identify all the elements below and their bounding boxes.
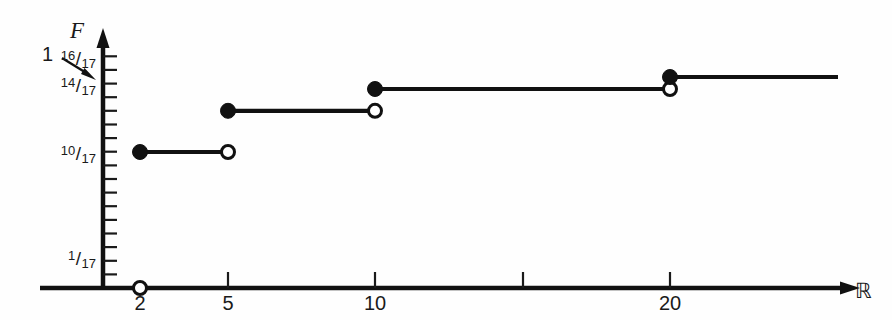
chart-plot-area bbox=[0, 0, 892, 320]
open-endpoint-x5 bbox=[222, 146, 235, 159]
y-label-1-17-denominator: 17 bbox=[82, 256, 96, 271]
x-axis-tick-marks bbox=[228, 272, 670, 288]
cdf-step-chart-figure: F ℝ 1 16/17 14/17 10/17 1/17 2 5 10 20 bbox=[0, 0, 892, 320]
closed-endpoint-x10 bbox=[368, 82, 383, 97]
closed-endpoint-x2 bbox=[133, 145, 148, 160]
y-label-16-17-denominator: 17 bbox=[82, 56, 96, 71]
closed-endpoint-x5 bbox=[221, 103, 236, 118]
y-label-16-17-numerator: 16 bbox=[61, 48, 75, 63]
y-axis-arrowhead bbox=[97, 28, 110, 48]
y-label-10-17-numerator: 10 bbox=[61, 143, 75, 158]
x-tick-label-20: 20 bbox=[650, 293, 690, 313]
x-tick-label-10: 10 bbox=[355, 293, 395, 313]
x-tick-label-2: 2 bbox=[120, 293, 160, 313]
open-endpoint-x10 bbox=[369, 104, 382, 117]
y-axis bbox=[97, 28, 110, 288]
y-axis-name: F bbox=[70, 19, 84, 42]
x-axis-name: ℝ bbox=[855, 281, 872, 302]
y-label-14-17: 14/17 bbox=[38, 76, 96, 97]
closed-endpoint-x20 bbox=[663, 70, 678, 85]
y-label-14-17-numerator: 14 bbox=[61, 75, 75, 90]
y-label-10-17: 10/17 bbox=[38, 144, 96, 165]
y-label-1-17: 1/17 bbox=[38, 249, 96, 270]
y-label-16-17: 16/17 bbox=[38, 49, 96, 70]
step-function-series bbox=[103, 70, 838, 295]
y-label-14-17-denominator: 17 bbox=[82, 83, 96, 98]
x-axis bbox=[40, 282, 860, 295]
y-label-10-17-denominator: 17 bbox=[82, 151, 96, 166]
x-tick-label-5: 5 bbox=[208, 293, 248, 313]
